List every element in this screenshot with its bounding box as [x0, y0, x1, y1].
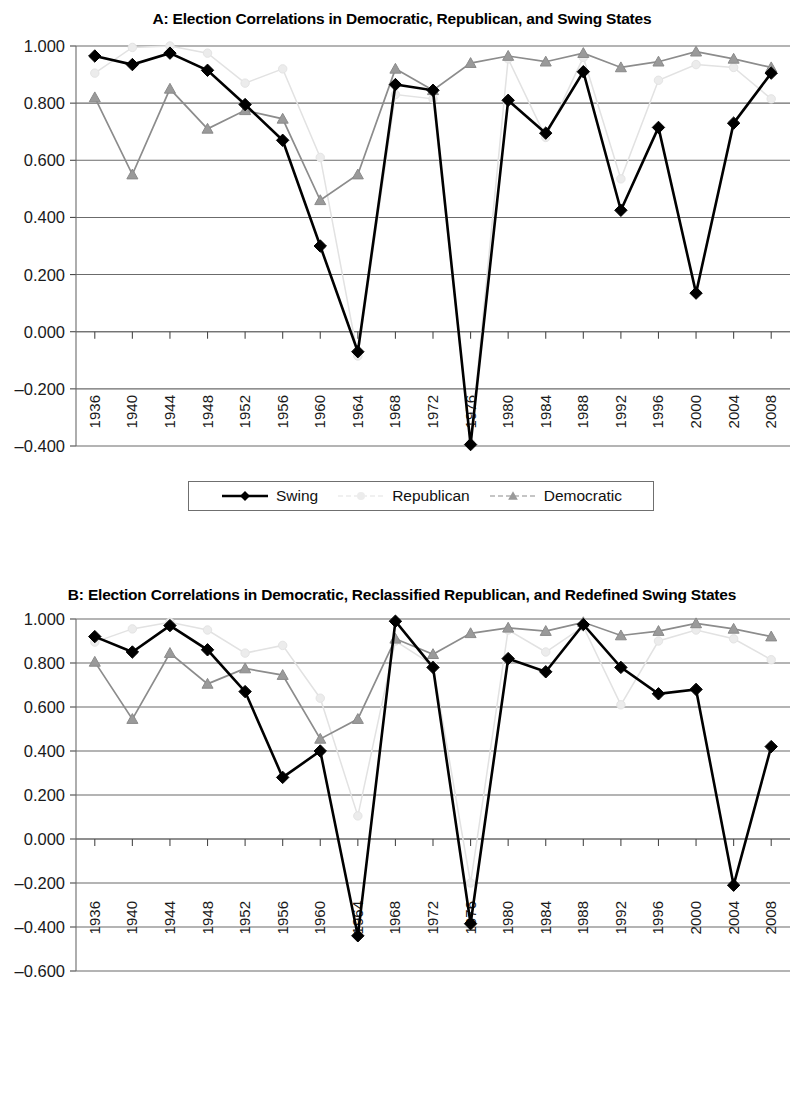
data-point-marker [241, 649, 249, 657]
series-democratic [89, 617, 776, 743]
y-axis-tick-label: 0.800 [24, 95, 65, 113]
x-axis-tick-label: 1936 [86, 395, 103, 428]
chart-a-legend: SwingRepublicanDemocratic [188, 481, 654, 511]
data-point-marker [464, 439, 476, 451]
x-axis-tick-label: 1968 [386, 901, 403, 934]
x-axis-tick-label: 1952 [236, 395, 253, 428]
x-axis-tick-label: 1988 [574, 901, 591, 934]
x-axis-tick-label: 1964 [349, 395, 366, 428]
x-axis-tick-label: 1984 [537, 901, 554, 934]
legend-circle-icon [357, 492, 365, 500]
x-axis-tick-label: 2004 [725, 395, 742, 428]
data-point-marker [314, 240, 326, 252]
data-point-marker [729, 64, 737, 72]
x-axis-tick-label: 1936 [86, 901, 103, 934]
data-point-marker [128, 44, 136, 52]
data-point-marker [241, 79, 249, 87]
y-axis-tick-label: 0.000 [24, 830, 65, 848]
y-axis-tick-label: 1.000 [24, 610, 65, 628]
data-point-marker [352, 169, 363, 179]
x-axis-tick-label: 1960 [311, 395, 328, 428]
data-point-marker [315, 195, 326, 205]
data-point-marker [352, 714, 363, 724]
data-point-marker [164, 648, 175, 658]
x-axis-tick-label: 2008 [762, 901, 779, 934]
legend-entry-republican: Republican [327, 487, 479, 505]
legend-entry-democratic: Democratic [479, 487, 631, 505]
figure-a: A: Election Correlations in Democratic, … [0, 0, 804, 540]
data-point-marker [503, 51, 514, 61]
y-axis-tick-label: –0.400 [15, 918, 65, 936]
y-axis-tick-label: 1.000 [24, 37, 65, 55]
data-point-marker [503, 623, 514, 633]
legend-swatch-circle-icon [336, 489, 386, 503]
data-point-marker [654, 637, 662, 645]
y-axis-tick-label: –0.200 [15, 380, 65, 398]
series-swing [89, 47, 778, 451]
series-democratic-line [95, 623, 771, 740]
y-axis-tick-label: 0.600 [24, 698, 65, 716]
y-axis-tick-label: 0.200 [24, 786, 65, 804]
data-point-marker [91, 69, 99, 77]
data-point-marker [654, 76, 662, 84]
data-point-marker [278, 65, 286, 73]
y-axis-tick-label: –0.400 [15, 437, 65, 455]
data-point-marker [316, 694, 324, 702]
data-point-marker [89, 50, 101, 62]
data-point-marker [164, 84, 175, 94]
x-axis-tick-label: 1984 [537, 395, 554, 428]
data-point-marker [692, 61, 700, 69]
data-point-marker [390, 64, 401, 74]
data-point-marker [690, 684, 702, 696]
data-point-marker [466, 879, 474, 887]
data-point-marker [542, 648, 550, 656]
legend-label: Swing [276, 487, 318, 505]
y-axis-tick-label: –0.200 [15, 874, 65, 892]
x-axis-tick-label: 1988 [574, 395, 591, 428]
data-point-marker [127, 169, 138, 179]
x-axis-tick-label: 1956 [274, 901, 291, 934]
data-point-marker [203, 49, 211, 57]
data-point-marker [354, 812, 362, 820]
legend-entry-swing: Swing [211, 487, 327, 505]
data-point-marker [578, 48, 589, 58]
series-democratic [89, 47, 776, 205]
x-axis-tick-label: 1972 [424, 901, 441, 934]
data-point-marker [617, 175, 625, 183]
x-axis-tick-label: 1992 [612, 901, 629, 934]
x-axis-tick-label: 2000 [687, 395, 704, 428]
data-point-marker [727, 879, 739, 891]
x-axis-tick-label: 1980 [499, 901, 516, 934]
series-republican-line [95, 46, 771, 443]
x-axis-tick-label: 1960 [311, 901, 328, 934]
legend-swatch-triangle-icon [488, 489, 538, 503]
data-point-marker [617, 701, 625, 709]
chart-b-plot-area: 1.0000.8000.6000.4000.2000.000–0.200–0.4… [0, 605, 804, 1035]
series-swing-line [95, 54, 771, 445]
x-axis-tick-label: 1980 [499, 395, 516, 428]
data-point-marker [652, 122, 664, 134]
data-point-marker [315, 734, 326, 744]
figure-b: B: Election Correlations in Democratic, … [0, 578, 804, 1119]
x-axis-tick-label: 2008 [762, 395, 779, 428]
x-axis-tick-label: 1940 [123, 395, 140, 428]
data-point-marker [767, 656, 775, 664]
data-point-marker [690, 287, 702, 299]
chart-a-plot-area: 1.0000.8000.6000.4000.2000.000–0.200–0.4… [0, 29, 804, 499]
y-axis-tick-label: 0.400 [24, 742, 65, 760]
chart-b-svg: 1.0000.8000.6000.4000.2000.000–0.200–0.4… [0, 605, 804, 1035]
x-axis-tick-label: 1944 [161, 395, 178, 428]
data-point-marker [240, 663, 251, 673]
chart-b-title: B: Election Correlations in Democratic, … [0, 578, 804, 605]
x-axis-tick-label: 1940 [123, 901, 140, 934]
data-point-marker [89, 657, 100, 667]
y-axis-tick-label: 0.200 [24, 266, 65, 284]
data-point-marker [767, 95, 775, 103]
data-point-marker [316, 154, 324, 162]
chart-a-title: A: Election Correlations in Democratic, … [0, 0, 804, 29]
data-point-marker [203, 626, 211, 634]
chart-a-svg: 1.0000.8000.6000.4000.2000.000–0.200–0.4… [0, 29, 804, 499]
x-axis-tick-label: 1996 [649, 901, 666, 934]
legend-diamond-icon [240, 491, 250, 501]
x-axis-tick-label: 2004 [725, 901, 742, 934]
